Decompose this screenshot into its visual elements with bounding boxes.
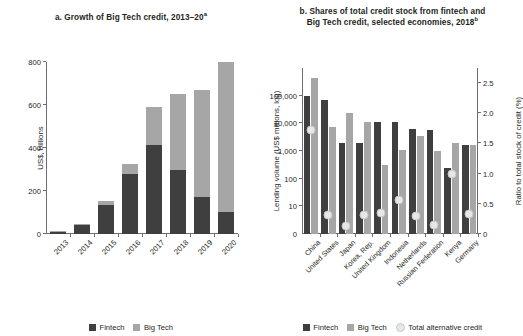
- legend-label-bigtech: Big Tech: [358, 323, 387, 332]
- bar-segment-fintech: [170, 170, 186, 235]
- grouped-bar: [462, 68, 477, 234]
- bar-slot: [46, 62, 70, 234]
- grouped-bar: [444, 68, 459, 234]
- bar-slot: [70, 62, 94, 234]
- stacked-bar: [146, 62, 162, 234]
- bar-segment-fintech: [50, 232, 66, 234]
- panel-b-y-tick-label-right: 2.5: [483, 79, 494, 88]
- panel-a-legend: FintechBig Tech: [0, 323, 262, 332]
- panel-a-bars: [46, 62, 238, 234]
- panel-b-x-tick: [408, 234, 409, 237]
- legend-label-fintech: Fintech: [313, 323, 338, 332]
- panel-a-x-tick-label: 2013: [52, 238, 70, 256]
- panel-b-title: b. Shares of total credit stock from fin…: [262, 6, 523, 28]
- panel-b-x-tick: [372, 234, 373, 237]
- grouped-bar: [374, 68, 389, 234]
- panel-a-x-tick: [94, 234, 95, 237]
- bar-segment-fintech: [218, 212, 234, 234]
- panel-a-x-tick: [238, 234, 239, 237]
- bar-bigtech: [382, 165, 389, 234]
- grouped-bar: [303, 68, 318, 234]
- bar-slot: [94, 62, 118, 234]
- panel-b-x-tick: [443, 234, 444, 237]
- panel-b-y-tick-label: 100: [284, 174, 297, 183]
- bar-slot: [190, 62, 214, 234]
- legend-label-fintech: Fintech: [100, 323, 125, 332]
- panel-b-y-tick-label-zero: 0: [293, 230, 297, 239]
- total-alt-credit-dot: [465, 210, 474, 219]
- panel-b-y-tick-right: [478, 142, 481, 143]
- bar-segment-fintech: [194, 197, 210, 234]
- grouped-bar: [391, 68, 406, 234]
- panel-b-plot-area: Lending volume (US$ millions, log) Ratio…: [302, 68, 478, 234]
- total-alt-credit-dot: [324, 211, 333, 220]
- panel-a-x-tick: [142, 234, 143, 237]
- bar-slot: [302, 68, 320, 234]
- bar-segment-bigtech: [122, 164, 138, 174]
- panel-a: a. Growth of Big Tech credit, 2013–20a U…: [0, 0, 262, 336]
- stacked-bar: [74, 62, 90, 234]
- bar-segment-fintech: [146, 145, 162, 234]
- total-alt-credit-dot: [412, 211, 421, 220]
- bar-slot: [337, 68, 355, 234]
- legend-item: Fintech: [303, 323, 338, 332]
- panel-b-title-superscript: b: [475, 16, 479, 22]
- legend-swatch-bigtech: [133, 324, 140, 331]
- bar-slot: [425, 68, 443, 234]
- panel-b-y-tick-right: [478, 173, 481, 174]
- bar-slot: [166, 62, 190, 234]
- bar-bigtech: [470, 145, 477, 234]
- panel-a-x-tick: [214, 234, 215, 237]
- bar-segment-fintech: [98, 205, 114, 234]
- panel-b-y-tick-label: 1,000: [278, 147, 297, 156]
- stacked-bar: [122, 62, 138, 234]
- legend-item: Fintech: [89, 323, 124, 332]
- panel-b-y-tick-label: 100,000: [270, 91, 297, 100]
- panel-a-y-tick-label: 400: [28, 144, 41, 153]
- panel-a-x-tick-label: 2018: [172, 238, 190, 256]
- total-alt-credit-dot: [447, 169, 456, 178]
- panel-a-x-tick-label: 2016: [124, 238, 142, 256]
- bar-slot: [372, 68, 390, 234]
- panel-b-title-line1: b. Shares of total credit stock from fin…: [300, 7, 486, 16]
- panel-b-legend: FintechBig TechTotal alternative credit: [262, 323, 523, 332]
- legend-item: Big Tech: [347, 323, 387, 332]
- panel-a-x-tick-label: 2020: [220, 238, 238, 256]
- bar-slot: [408, 68, 426, 234]
- bar-bigtech: [311, 78, 318, 234]
- panel-b-y-tick-label-right: 0.5: [483, 199, 494, 208]
- panel-a-x-tick-label: 2017: [148, 238, 166, 256]
- bar-slot: [390, 68, 408, 234]
- legend-swatch-bigtech: [347, 324, 354, 331]
- bar-fintech: [462, 145, 469, 234]
- bar-fintech: [304, 96, 311, 234]
- panel-a-y-tick-label: 200: [28, 187, 41, 196]
- panel-b: b. Shares of total credit stock from fin…: [262, 0, 523, 336]
- bar-segment-bigtech: [218, 62, 234, 212]
- panel-a-title-text: a. Growth of Big Tech credit, 2013–20: [55, 13, 204, 22]
- total-alt-credit-dot: [306, 126, 315, 135]
- panel-a-y-tick-label: 600: [28, 101, 41, 110]
- panel-a-y-tick-label: 0: [37, 230, 41, 239]
- panel-b-title-line2: Big Tech credit, selected economies, 201…: [307, 18, 475, 27]
- panel-a-x-tick: [70, 234, 71, 237]
- bar-slot: [443, 68, 461, 234]
- total-alt-credit-dot: [377, 208, 386, 217]
- legend-label-bigtech: Big Tech: [144, 323, 173, 332]
- bar-slot: [460, 68, 478, 234]
- bar-segment-fintech: [74, 225, 90, 234]
- panel-b-x-tick: [337, 234, 338, 237]
- panel-b-bars: [302, 68, 478, 234]
- panel-b-y-tick-right: [478, 203, 481, 204]
- legend-item: Total alternative credit: [396, 323, 482, 332]
- bar-bigtech: [346, 113, 353, 234]
- stacked-bar: [218, 62, 234, 234]
- panel-a-x-tick: [190, 234, 191, 237]
- figure-container: a. Growth of Big Tech credit, 2013–20a U…: [0, 0, 523, 336]
- bar-fintech: [427, 130, 434, 234]
- panel-a-x-tick-label: 2015: [100, 238, 118, 256]
- bar-slot: [214, 62, 238, 234]
- panel-a-title: a. Growth of Big Tech credit, 2013–20a: [0, 12, 262, 23]
- panel-b-y-tick-right: [478, 82, 481, 83]
- panel-a-y-tick-label: 800: [28, 58, 41, 67]
